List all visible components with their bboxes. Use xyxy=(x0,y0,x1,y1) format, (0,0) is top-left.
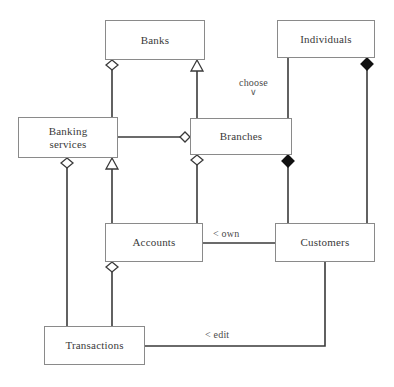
node-banks-label: Banks xyxy=(138,34,173,47)
edge-label-choose: choose ∨ xyxy=(239,78,268,97)
node-accounts[interactable]: Accounts xyxy=(105,223,203,262)
node-accounts-label: Accounts xyxy=(129,236,178,249)
hollow-diamond-branches-banking xyxy=(180,132,190,142)
hollow-diamond-branches-accounts xyxy=(191,155,203,165)
hollow-triangle-banking-accounts xyxy=(106,158,118,169)
edge-label-own: < own xyxy=(213,228,239,239)
node-banks[interactable]: Banks xyxy=(105,20,205,60)
solid-diamond-individuals-customers xyxy=(361,58,373,70)
hollow-diamond-banking-transactions xyxy=(61,158,73,168)
hollow-diamond-accounts-transactions xyxy=(106,262,118,272)
node-banking-services-label: Banking services xyxy=(46,125,91,151)
hollow-diamond-banks-banking xyxy=(106,60,118,70)
node-banking-services[interactable]: Banking services xyxy=(18,117,118,158)
uml-class-diagram: Banks Individuals Banking services Branc… xyxy=(0,0,394,387)
node-transactions[interactable]: Transactions xyxy=(44,326,145,365)
chevron-down-icon: ∨ xyxy=(239,88,268,97)
node-customers[interactable]: Customers xyxy=(275,223,375,262)
node-individuals-label: Individuals xyxy=(297,33,355,46)
hollow-triangle-banks-branches xyxy=(191,60,203,71)
node-branches-label: Branches xyxy=(217,130,266,143)
node-branches[interactable]: Branches xyxy=(190,118,292,155)
edge-label-edit: < edit xyxy=(205,329,229,340)
node-transactions-label: Transactions xyxy=(62,339,126,352)
node-customers-label: Customers xyxy=(298,236,353,249)
edge-transactions-customers xyxy=(145,262,325,346)
node-individuals[interactable]: Individuals xyxy=(277,20,375,58)
solid-diamond-branches-customers xyxy=(282,155,294,167)
